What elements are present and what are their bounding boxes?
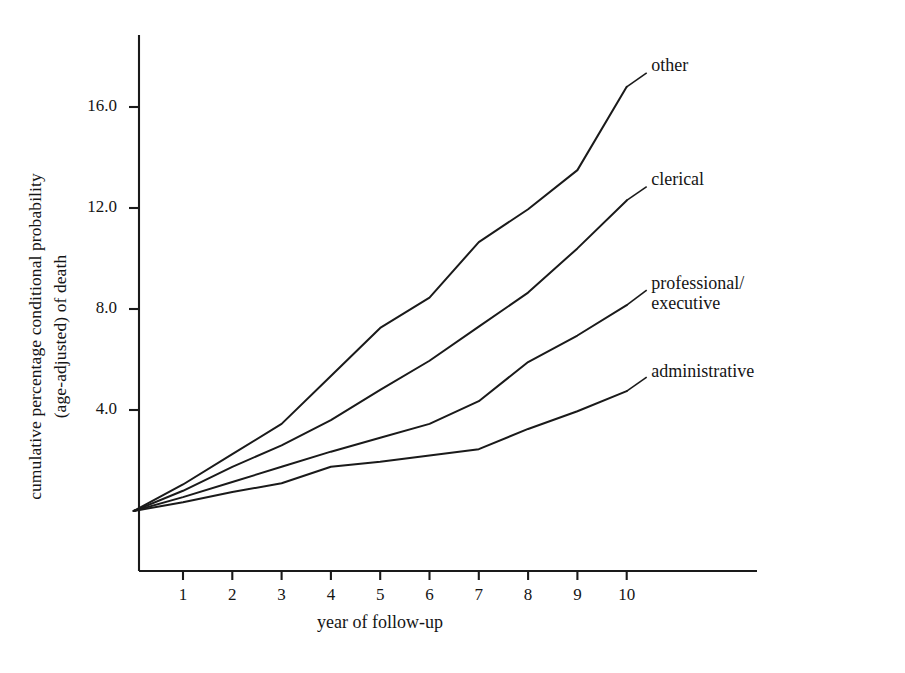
series-line-other xyxy=(134,87,627,511)
clerical-label: clerical xyxy=(651,169,704,189)
x-axis-tick-label: 9 xyxy=(552,585,602,605)
series-line-clerical xyxy=(134,200,627,511)
x-axis-tick-label: 8 xyxy=(503,585,553,605)
figure: cumulative percentage conditional probab… xyxy=(0,0,905,673)
chart-plot-area xyxy=(0,0,905,673)
series-line-professional-executive xyxy=(134,305,627,511)
x-axis-tick-label: 1 xyxy=(158,585,208,605)
x-axis-tick-label: 4 xyxy=(306,585,356,605)
leader-line-administrative xyxy=(627,377,647,391)
y-axis-tick-label: 4.0 xyxy=(43,399,117,419)
x-axis-tick-label: 5 xyxy=(355,585,405,605)
professional-executive-label: professional/ executive xyxy=(651,273,744,313)
series-line-administrative xyxy=(134,391,627,511)
x-axis-tick-label: 2 xyxy=(207,585,257,605)
x-axis-tick-label: 6 xyxy=(405,585,455,605)
administrative-label: administrative xyxy=(651,361,754,381)
data-series-group xyxy=(134,87,627,511)
x-axis-tick-label: 10 xyxy=(602,585,652,605)
leader-line-clerical xyxy=(627,187,647,201)
y-axis-tick-label: 16.0 xyxy=(43,96,117,116)
leader-line-professional-executive xyxy=(627,290,647,305)
y-axis-tick-label: 8.0 xyxy=(43,298,117,318)
other-label: other xyxy=(651,55,688,75)
leader-line-other xyxy=(627,73,647,87)
x-axis-tick-label: 7 xyxy=(454,585,504,605)
y-axis-tick-label: 12.0 xyxy=(43,197,117,217)
x-axis-title: year of follow-up xyxy=(0,612,760,633)
label-leader-lines xyxy=(627,73,647,391)
x-axis-tick-label: 3 xyxy=(257,585,307,605)
